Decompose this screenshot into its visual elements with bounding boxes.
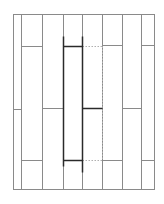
plank-layout-diagram: [0, 0, 164, 204]
outer-border: [14, 15, 155, 190]
highlighted-board: [64, 37, 103, 173]
board-grid: [14, 15, 155, 190]
